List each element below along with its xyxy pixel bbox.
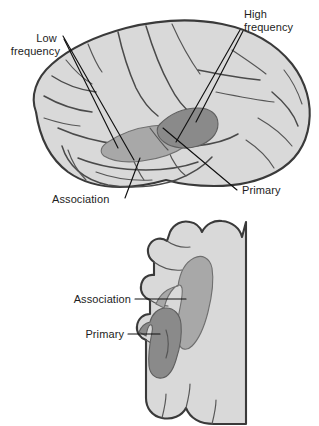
auditory-cortex-figure: Low frequency High frequency Association… (0, 0, 319, 426)
label-low-frequency: Low frequency (11, 32, 61, 57)
label-high-frequency-line2: frequency (244, 21, 294, 33)
label-primary-lateral: Primary (242, 184, 281, 196)
lateral-view-panel: Low frequency High frequency Association… (11, 8, 310, 205)
label-low-frequency-line2: frequency (11, 45, 61, 57)
label-association-lateral: Association (52, 193, 109, 205)
label-high-frequency: High frequency (244, 8, 294, 33)
label-association-coronal: Association (74, 293, 131, 305)
label-low-frequency-line1: Low (36, 32, 56, 44)
cerebrum-outline (34, 21, 310, 187)
coronal-section-panel: Association Primary (74, 221, 246, 424)
label-high-frequency-line1: High (244, 8, 267, 20)
label-primary-coronal: Primary (85, 328, 124, 340)
